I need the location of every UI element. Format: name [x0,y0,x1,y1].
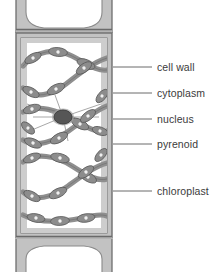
adjacent-cell-above [16,0,112,33]
cell-interior [19,38,110,233]
leader-lines [113,67,152,191]
label-pyrenoid: pyrenoid [157,139,198,150]
nucleus-body [54,110,72,124]
nucleus [52,109,74,126]
lower-cell-lumen [26,246,102,272]
label-chloroplast: chloroplast [157,186,209,197]
label-nucleus: nucleus [157,114,194,125]
label-cytoplasm: cytoplasm [157,88,205,99]
adjacent-cell-below [16,239,112,272]
label-cell-wall: cell wall [157,62,195,73]
spirogyra-cell-diagram [0,0,218,272]
figure-canvas: cell wallcytoplasmnucleuspyrenoidchlorop… [0,0,218,272]
upper-cell-lumen [26,0,102,28]
